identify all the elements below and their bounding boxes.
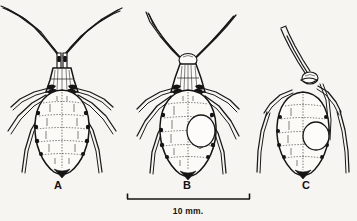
scale-bar: 10 mm. — [127, 194, 250, 217]
antenna-left-b — [146, 12, 185, 62]
panel-label-c: C — [302, 179, 310, 191]
abdominal-spot-b — [187, 115, 215, 147]
abdominal-spot-c — [303, 122, 329, 150]
scale-bar-label: 10 mm. — [173, 206, 204, 216]
antenna-left-a — [1, 6, 60, 56]
abdomen-c — [276, 92, 330, 179]
head-c — [301, 72, 318, 84]
antenna-right-a — [63, 8, 122, 56]
abdomen-a — [34, 90, 90, 178]
panel-label-b: B — [183, 179, 191, 191]
antenna-right-b — [191, 15, 236, 62]
figure-plate: A — [0, 0, 357, 221]
specimen-b: B — [137, 12, 239, 191]
abdomen-b — [159, 90, 216, 180]
specimen-a: A — [1, 6, 122, 191]
panel-label-a: A — [54, 179, 62, 191]
antenna-c — [281, 26, 310, 73]
specimen-c: C — [257, 26, 349, 191]
aphid-plate-drawing: A — [0, 0, 357, 221]
